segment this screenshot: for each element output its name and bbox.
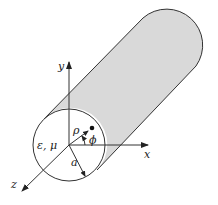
radius-label: a	[71, 156, 78, 169]
rho-label: ρ	[72, 124, 80, 137]
phi-label: ϕ	[89, 134, 97, 147]
y-axis-label: y	[57, 60, 65, 73]
point-marker	[90, 126, 95, 131]
diagram-canvas: y x z ε, μ ρ ϕ a	[0, 0, 218, 205]
x-axis-label: x	[144, 148, 151, 161]
cylinder-coordinate-diagram: y x z ε, μ ρ ϕ a	[0, 0, 218, 205]
material-label: ε, μ	[37, 139, 57, 152]
z-axis-label: z	[10, 178, 17, 191]
